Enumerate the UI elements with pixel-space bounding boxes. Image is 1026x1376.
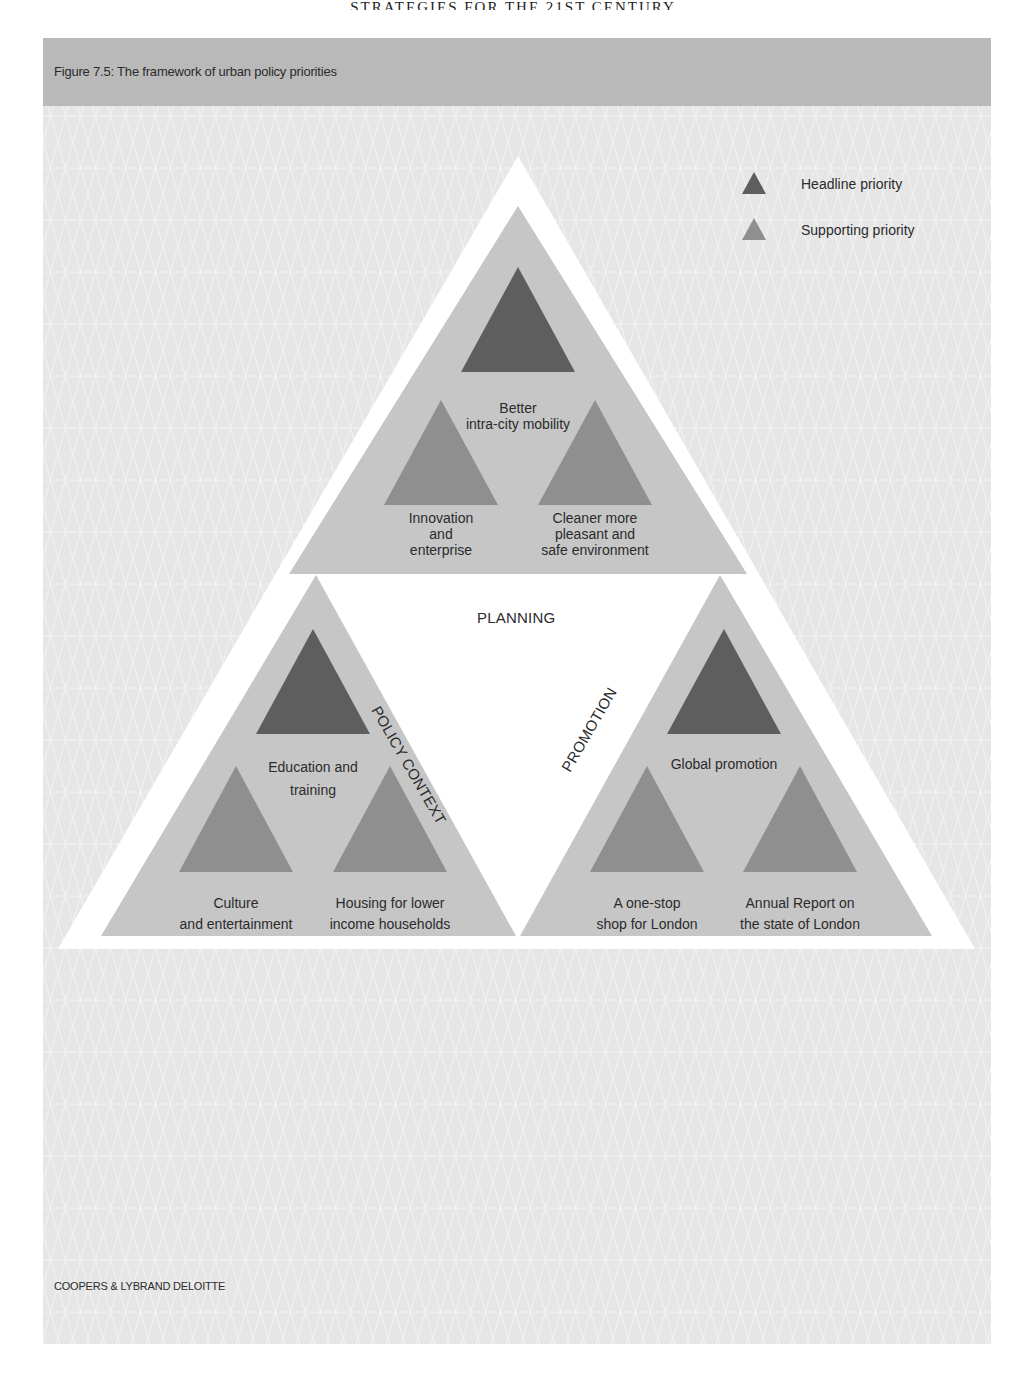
label-global-promotion: Global promotion — [671, 756, 778, 772]
label-annual-report: Annual Report on the state of London — [740, 893, 860, 935]
center-label-planning: PLANNING — [477, 609, 555, 626]
label-line: intra-city mobility — [466, 416, 570, 432]
label-housing: Housing for lower income households — [330, 893, 451, 935]
label-line: safe environment — [541, 542, 648, 558]
label-line: shop for London — [596, 914, 697, 935]
legend-item-supporting: Supporting priority — [801, 222, 915, 238]
label-better-mobility: Better intra-city mobility — [466, 400, 570, 432]
running-head: STRATEGIES FOR THE 21ST CENTURY — [0, 0, 1026, 10]
legend-item-headline: Headline priority — [801, 176, 902, 192]
label-line: Annual Report on — [740, 893, 860, 914]
label-line: Global promotion — [671, 756, 778, 772]
legend-label-headline: Headline priority — [801, 176, 902, 192]
label-line: income households — [330, 914, 451, 935]
legend-supporting-triangle-icon — [742, 218, 766, 240]
label-line: and entertainment — [180, 914, 293, 935]
label-line: training — [268, 779, 358, 802]
label-line: enterprise — [409, 542, 474, 558]
label-line: Housing for lower — [330, 893, 451, 914]
label-line: Education and — [268, 756, 358, 779]
label-line: and — [409, 526, 474, 542]
figure-panel: Figure 7.5: The framework of urban polic… — [43, 38, 991, 1344]
label-culture-entertainment: Culture and entertainment — [180, 893, 293, 935]
label-cleaner-environment: Cleaner more pleasant and safe environme… — [541, 510, 648, 558]
label-line: Better — [466, 400, 570, 416]
label-education-training: Education and training — [268, 756, 358, 802]
label-line: the state of London — [740, 914, 860, 935]
label-line: Culture — [180, 893, 293, 914]
label-line: pleasant and — [541, 526, 648, 542]
label-one-stop-shop: A one-stop shop for London — [596, 893, 697, 935]
label-line: Innovation — [409, 510, 474, 526]
top-group-triangle — [289, 206, 747, 574]
legend-label-supporting: Supporting priority — [801, 222, 915, 238]
footer-credit: COOPERS & LYBRAND DELOITTE — [54, 1280, 225, 1292]
label-line: A one-stop — [596, 893, 697, 914]
label-innovation-enterprise: Innovation and enterprise — [409, 510, 474, 558]
label-line: Cleaner more — [541, 510, 648, 526]
legend-headline-triangle-icon — [742, 172, 766, 194]
